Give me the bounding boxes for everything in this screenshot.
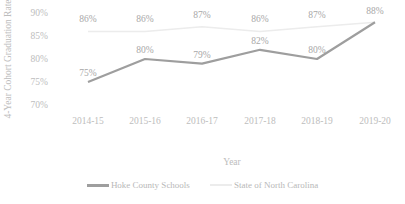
y-tick-label: 75% (31, 77, 49, 87)
data-label: 80% (136, 45, 154, 55)
y-axis-title: 4-Year Cohort Graduation Rate (3, 0, 13, 119)
line-chart: 4-Year Cohort Graduation Rate 70%75%80%8… (0, 0, 405, 204)
y-tick-label: 90% (31, 8, 49, 18)
data-label: 80% (308, 45, 326, 55)
y-tick-label: 70% (31, 100, 49, 110)
data-label: 79% (193, 50, 211, 60)
x-tick-label: 2017-18 (244, 116, 276, 126)
y-tick-label: 85% (31, 31, 49, 41)
x-axis-ticks: 2014-152015-162016-172017-182018-192019-… (72, 116, 391, 126)
data-label: 86% (251, 14, 269, 24)
data-label: 87% (193, 10, 211, 20)
x-axis-title: Year (223, 157, 241, 167)
data-label: 75% (79, 68, 97, 78)
y-tick-label: 80% (31, 54, 49, 64)
legend-item-hoke: Hoke County Schools (87, 180, 190, 190)
data-label: 86% (79, 14, 97, 24)
series-lines (88, 22, 375, 82)
legend-item-state: State of North Carolina (210, 180, 318, 190)
data-label: 87% (308, 10, 326, 20)
x-tick-label: 2016-17 (186, 116, 218, 126)
data-label: 88% (366, 6, 384, 16)
north-carolina-line (88, 22, 375, 31)
legend-swatch-state (210, 184, 232, 186)
legend-swatch-hoke (87, 184, 109, 187)
data-label: 82% (251, 36, 269, 46)
y-axis-ticks: 70%75%80%85%90% (31, 8, 49, 110)
legend-label-state: State of North Carolina (234, 180, 318, 190)
x-tick-label: 2014-15 (72, 116, 104, 126)
x-tick-label: 2019-20 (359, 116, 391, 126)
x-tick-label: 2018-19 (301, 116, 333, 126)
chart-legend: Hoke County Schools State of North Carol… (0, 180, 405, 190)
legend-label-hoke: Hoke County Schools (111, 180, 190, 190)
x-tick-label: 2015-16 (129, 116, 161, 126)
data-label: 86% (136, 14, 154, 24)
